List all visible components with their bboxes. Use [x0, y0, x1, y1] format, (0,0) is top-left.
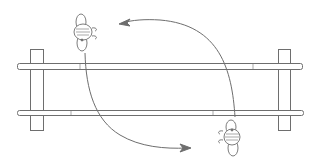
top-rail — [18, 64, 303, 70]
right-post — [279, 50, 291, 131]
top-figure-icon — [74, 14, 96, 51]
arrowhead-up-left-icon — [119, 19, 130, 26]
fence-rails — [18, 64, 304, 116]
movement-arrows — [85, 19, 235, 152]
bottom-figure-icon — [219, 120, 240, 156]
diagram-canvas: Two figures swapping positions across a … — [0, 0, 319, 164]
left-post — [31, 50, 44, 131]
bottom-rail — [18, 111, 304, 116]
fence-diagram — [0, 0, 319, 164]
fence-posts — [31, 50, 291, 131]
